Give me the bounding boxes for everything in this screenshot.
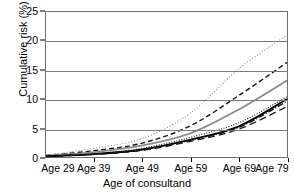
gridline-15: [46, 71, 287, 72]
y-tick-label-0: 0: [32, 153, 38, 164]
series-line-series-5-solid-black: [46, 99, 287, 156]
x-tick-label-79: Age 79: [255, 163, 288, 174]
series-line-series-7-longdash-black: [46, 107, 287, 157]
x-tick-label-29: Age 29: [41, 163, 74, 174]
series-line-series-4-dotted-dark: [46, 97, 287, 156]
series-line-series-1-dotted-light: [46, 35, 287, 155]
series-layer: [46, 12, 287, 157]
gridline-20: [46, 41, 287, 42]
x-tick-label-59: Age 59: [174, 163, 207, 174]
x-axis-title: Age of consultand: [0, 177, 294, 189]
y-tick-label-20: 20: [26, 35, 38, 46]
y-tick-label-15: 15: [26, 65, 38, 76]
cumulative-risk-chart: Cumulative risk (%) 0510152025 Age 29Age…: [0, 0, 294, 193]
plot-area: [45, 11, 288, 158]
y-axis: 0510152025: [0, 0, 45, 193]
y-tick-label-10: 10: [26, 94, 38, 105]
x-tick-label-39: Age 39: [77, 163, 110, 174]
gridline-5: [46, 130, 287, 131]
y-tick-label-25: 25: [26, 6, 38, 17]
x-tick-label-49: Age 49: [126, 163, 159, 174]
y-tick-label-5: 5: [32, 123, 38, 134]
gridline-10: [46, 100, 287, 101]
x-tick-label-69: Age 69: [223, 163, 256, 174]
series-line-series-2-dashed-black: [46, 62, 287, 155]
